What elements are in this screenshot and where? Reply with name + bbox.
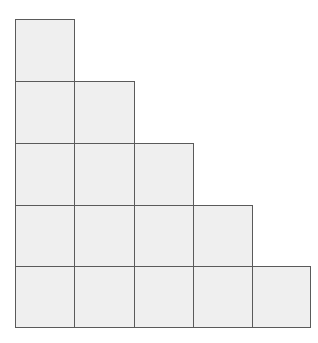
grid-cell [134, 205, 194, 267]
grid-cell [74, 266, 135, 328]
grid-cell [15, 205, 75, 267]
grid-cell [74, 143, 135, 206]
grid-cell [193, 205, 253, 267]
grid-cell [74, 205, 135, 267]
grid-cell [252, 266, 311, 328]
grid-cell [15, 19, 75, 82]
grid-cell [15, 266, 75, 328]
grid-cell [134, 143, 194, 206]
grid-cell [15, 143, 75, 206]
grid-cell [134, 266, 194, 328]
grid-cell [15, 81, 75, 144]
grid-cell [74, 81, 135, 144]
grid-cell [193, 266, 253, 328]
